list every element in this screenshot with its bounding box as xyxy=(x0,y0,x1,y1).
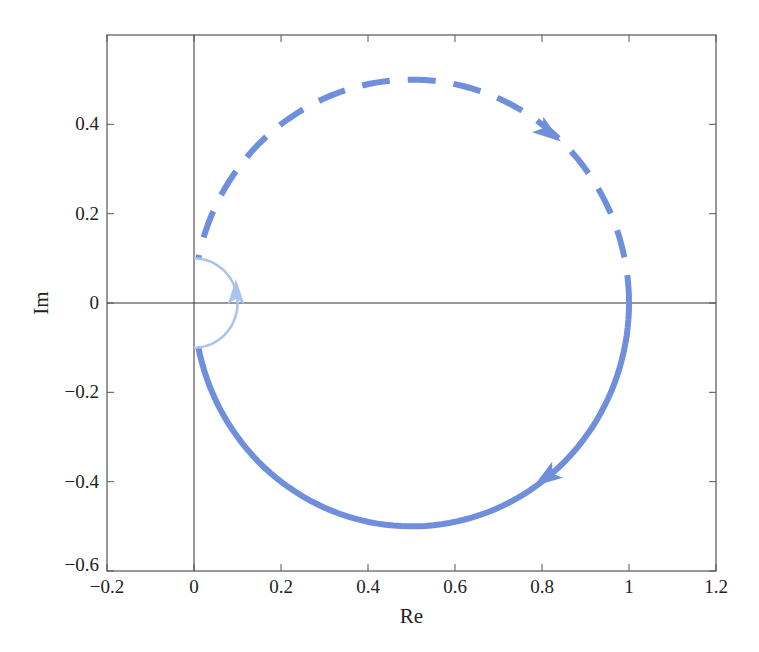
x-tick-label: 1.2 xyxy=(704,576,728,597)
x-tick-label: 1 xyxy=(624,576,634,597)
plot-frame xyxy=(107,35,716,571)
y-tick-label: −0.2 xyxy=(65,381,99,402)
y-tick-label: −0.6 xyxy=(65,554,99,575)
x-tick-label: 0.8 xyxy=(530,576,554,597)
y-tick-label: −0.4 xyxy=(65,471,100,492)
x-tick-label: 0.6 xyxy=(443,576,467,597)
y-tick-label: 0 xyxy=(90,292,100,313)
y-axis-label: Im xyxy=(29,291,53,314)
x-tick-label: 0 xyxy=(189,576,199,597)
dashed-direction-arrow-icon xyxy=(532,117,561,142)
nyquist-plot: −0.200.20.40.60.811.2−0.6−0.4−0.200.20.4… xyxy=(0,0,759,652)
y-tick-label: 0.2 xyxy=(75,203,99,224)
y-tick-label: 0.4 xyxy=(75,113,99,134)
solid-curve xyxy=(198,303,629,526)
dashed-curve xyxy=(198,80,629,303)
x-tick-label: −0.2 xyxy=(90,576,124,597)
x-tick-label: 0.2 xyxy=(269,576,293,597)
x-axis-label: Re xyxy=(400,604,423,628)
x-tick-label: 0.4 xyxy=(356,576,380,597)
small-arc-direction-arrow-icon xyxy=(228,279,245,304)
